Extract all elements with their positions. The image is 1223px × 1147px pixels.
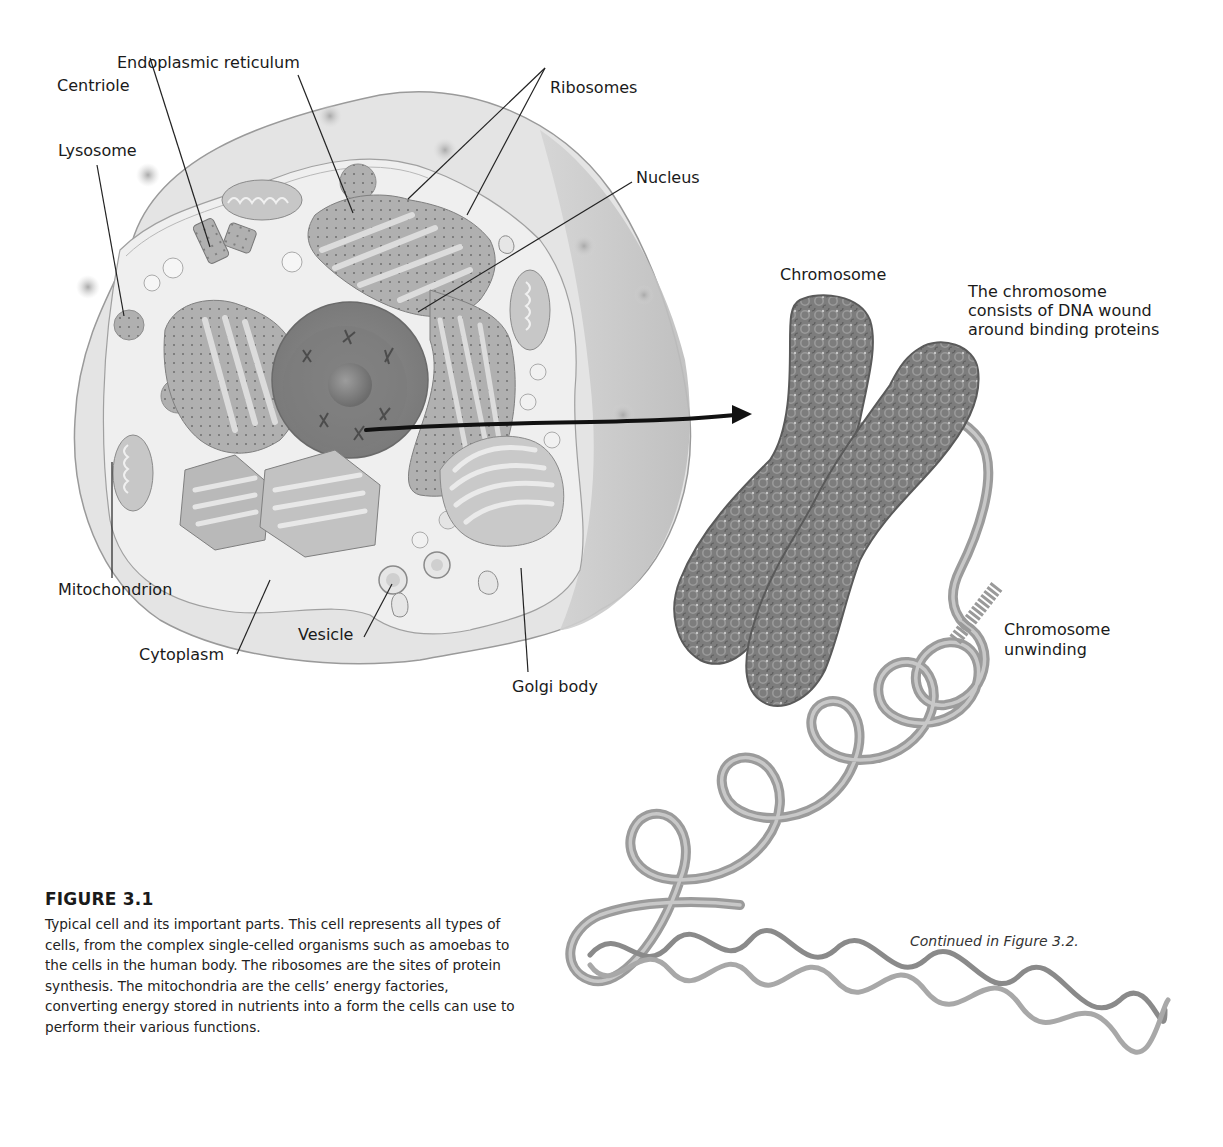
lysosome — [114, 310, 144, 340]
nucleus — [272, 302, 428, 458]
figure-caption-text: Typical cell and its important parts. Th… — [45, 914, 515, 1037]
label-cytoplasm: Cytoplasm — [139, 645, 224, 665]
label-vesicle: Vesicle — [298, 625, 353, 645]
dna-description-line-2: consists of DNA wound — [968, 301, 1159, 320]
label-centriole: Centriole — [57, 76, 130, 96]
label-ribosomes: Ribosomes — [550, 78, 637, 98]
dna-description-line-3: around binding proteins — [968, 320, 1159, 339]
unwinding-line-2: unwinding — [1004, 640, 1110, 660]
label-endoplasmic-reticulum: Endoplasmic reticulum — [117, 53, 300, 73]
label-golgi-body: Golgi body — [512, 677, 598, 697]
label-nucleus: Nucleus — [636, 168, 700, 188]
dna-double-helix — [590, 930, 1168, 1052]
label-mitochondrion: Mitochondrion — [58, 580, 172, 600]
label-dna-description: The chromosome consists of DNA wound aro… — [968, 282, 1159, 339]
continued-note: Continued in Figure 3.2. — [910, 933, 1079, 949]
label-chromosome: Chromosome — [780, 265, 886, 285]
cell-diagram — [74, 58, 752, 672]
nucleolus — [328, 363, 372, 407]
label-lysosome: Lysosome — [58, 141, 137, 161]
figure-number: FIGURE 3.1 — [45, 888, 515, 910]
label-chromosome-unwinding: Chromosome unwinding — [1004, 620, 1110, 660]
dna-description-line-1: The chromosome — [968, 282, 1159, 301]
unwinding-line-1: Chromosome — [1004, 620, 1110, 640]
figure-caption: FIGURE 3.1 Typical cell and its importan… — [45, 888, 515, 1037]
